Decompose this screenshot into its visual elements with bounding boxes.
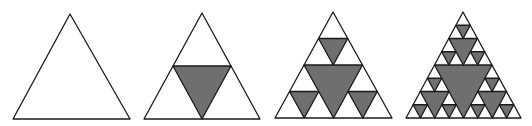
triangle-iteration-3 [406, 12, 521, 118]
outer-triangle [13, 14, 130, 119]
triangle-iteration-2 [275, 12, 392, 118]
sierpinski-diagram [0, 0, 532, 126]
triangle-iteration-1 [144, 13, 260, 119]
triangle-iteration-0 [13, 14, 130, 119]
